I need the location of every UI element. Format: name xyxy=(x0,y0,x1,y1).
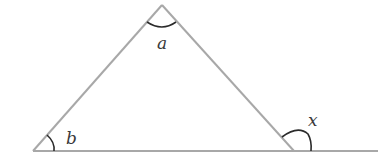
angle-x-arc xyxy=(282,130,311,151)
label-b: b xyxy=(66,128,77,148)
angle-b-arc xyxy=(47,135,54,151)
label-a: a xyxy=(157,33,167,53)
angle-a-arc xyxy=(147,22,176,27)
label-x: x xyxy=(308,110,318,130)
triangle-diagram: a b x xyxy=(0,0,378,165)
right-side xyxy=(162,5,294,151)
left-side xyxy=(33,5,162,151)
